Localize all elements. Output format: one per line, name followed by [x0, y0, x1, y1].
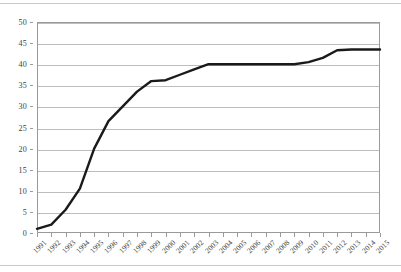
y-tick-label: 20 [19, 144, 27, 153]
y-tick-mark [30, 149, 33, 150]
x-tick-mark [223, 233, 224, 237]
y-axis: 05101520253035404550 [0, 22, 33, 233]
y-tick-mark [30, 106, 33, 107]
x-tick-mark [294, 233, 295, 237]
y-tick-label: 25 [19, 123, 27, 132]
x-tick-mark [180, 233, 181, 237]
y-tick-mark [30, 22, 33, 23]
x-tick-label: 2010 [303, 238, 320, 255]
y-tick-label: 50 [19, 18, 27, 27]
x-tick-mark [123, 233, 124, 237]
x-tick-mark [366, 233, 367, 237]
data-series-line [37, 22, 380, 233]
y-tick-mark [30, 191, 33, 192]
y-tick-label: 30 [19, 102, 27, 111]
x-tick-mark [108, 233, 109, 237]
x-tick-label: 1999 [145, 238, 162, 255]
y-tick-label: 0 [23, 229, 27, 238]
y-tick-label: 5 [23, 207, 27, 216]
y-tick-mark [30, 170, 33, 171]
x-tick-mark [51, 233, 52, 237]
x-tick-mark [209, 233, 210, 237]
y-tick-mark [30, 85, 33, 86]
x-tick-mark [323, 233, 324, 237]
x-tick-mark [137, 233, 138, 237]
y-tick-label: 10 [19, 186, 27, 195]
x-tick-mark [166, 233, 167, 237]
y-tick-label: 45 [19, 39, 27, 48]
y-tick-label: 35 [19, 81, 27, 90]
y-tick-mark [30, 43, 33, 44]
x-tick-mark [80, 233, 81, 237]
x-tick-mark [351, 233, 352, 237]
y-tick-mark [30, 233, 33, 234]
x-tick-mark [309, 233, 310, 237]
y-tick-mark [30, 64, 33, 65]
x-tick-mark [266, 233, 267, 237]
x-tick-label: 1996 [103, 238, 120, 255]
x-tick-mark [337, 233, 338, 237]
x-tick-mark [151, 233, 152, 237]
x-tick-mark [280, 233, 281, 237]
x-tick-label: 1992 [45, 238, 62, 255]
x-tick-label: 2015 [374, 238, 391, 255]
x-axis: 1991199219931994199519961997199819992000… [37, 238, 380, 272]
series-polyline [37, 49, 380, 228]
x-tick-label: 2013 [346, 238, 363, 255]
y-tick-mark [30, 128, 33, 129]
y-tick-mark [30, 212, 33, 213]
line-chart-figure: 05101520253035404550 1991199219931994199… [0, 0, 401, 272]
x-tick-mark [37, 233, 38, 237]
x-tick-mark [94, 233, 95, 237]
x-tick-mark [380, 233, 381, 237]
x-tick-mark [251, 233, 252, 237]
x-tick-label: 1993 [60, 238, 77, 255]
x-tick-label: 2002 [188, 238, 205, 255]
document-rule-top [0, 3, 401, 4]
x-tick-mark [66, 233, 67, 237]
x-tick-label: 2003 [203, 238, 220, 255]
x-tick-mark [237, 233, 238, 237]
x-tick-label: 2009 [288, 238, 305, 255]
x-tick-label: 2006 [245, 238, 262, 255]
x-tick-mark [194, 233, 195, 237]
y-tick-label: 40 [19, 60, 27, 69]
y-tick-label: 15 [19, 165, 27, 174]
